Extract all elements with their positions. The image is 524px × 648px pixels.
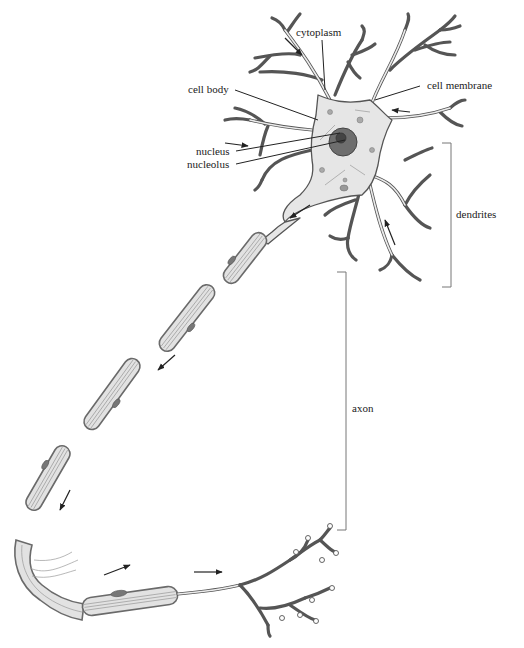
- label-axon: axon: [352, 402, 373, 414]
- label-cell-membrane: cell membrane: [427, 79, 492, 91]
- label-cell-body: cell body: [188, 83, 229, 95]
- axon-terminals: [240, 524, 339, 637]
- axon-shape: [15, 218, 300, 620]
- axon-bracket: [337, 272, 346, 530]
- label-nucleus: nucleus: [196, 145, 230, 157]
- label-dendrites: dendrites: [456, 208, 496, 220]
- label-nucleolus: nucleolus: [187, 158, 229, 170]
- neuron-diagram: cytoplasm cell body cell membrane nucleu…: [0, 0, 524, 648]
- dendrites-bracket: [442, 143, 451, 287]
- label-cytoplasm: cytoplasm: [296, 26, 341, 38]
